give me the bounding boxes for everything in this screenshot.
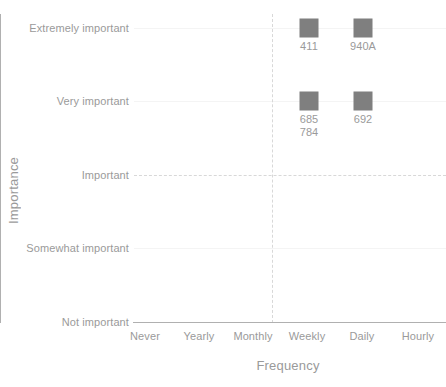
y-axis-tick-labels: Extremely important Very important Impor… xyxy=(5,0,129,387)
x-tick-hourly: Hourly xyxy=(402,330,434,342)
x-tick-yearly: Yearly xyxy=(184,330,215,342)
gridline-extremely-important xyxy=(134,28,446,29)
x-tick-weekly: Weekly xyxy=(289,330,325,342)
x-axis-title: Frequency xyxy=(130,358,446,373)
marker-label-692: 692 xyxy=(354,113,373,126)
gridline-somewhat-important xyxy=(134,248,446,249)
gridline-very-important xyxy=(134,101,446,102)
x-tick-monthly: Monthly xyxy=(233,330,272,342)
y-tick-not-important: Not important xyxy=(9,316,129,328)
y-tick-somewhat-important: Somewhat important xyxy=(9,242,129,254)
marker-daily-very-important[interactable] xyxy=(354,92,373,111)
marker-weekly-extremely-important[interactable] xyxy=(300,19,319,38)
x-tick-daily: Daily xyxy=(350,330,375,342)
marker-label-784: 784 xyxy=(300,126,319,139)
y-axis-line xyxy=(0,14,1,323)
reference-line-vertical xyxy=(272,14,273,323)
y-tick-extremely-important: Extremely important xyxy=(9,22,129,34)
marker-label-685: 685 xyxy=(300,113,319,126)
importance-frequency-chart: Importance Frequency Extremely important… xyxy=(0,0,446,387)
y-tick-very-important: Very important xyxy=(9,95,129,107)
reference-line-important-horizontal xyxy=(134,175,446,176)
x-tick-never: Never xyxy=(130,330,160,342)
x-axis-line xyxy=(133,322,446,323)
marker-weekly-very-important[interactable] xyxy=(300,92,319,111)
marker-label-411: 411 xyxy=(300,40,318,53)
y-tick-important: Important xyxy=(9,169,129,181)
marker-label-940A: 940A xyxy=(350,40,376,53)
marker-daily-extremely-important[interactable] xyxy=(354,19,373,38)
